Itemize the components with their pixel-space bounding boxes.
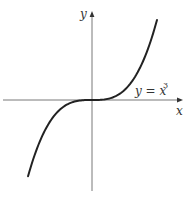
y-axis-arrow-icon (90, 11, 95, 17)
x-axis-arrow-icon (177, 98, 183, 103)
y-axis-label: y (79, 7, 87, 21)
curve-label-exponent: 3 (163, 81, 168, 90)
curve-label: y = x (134, 84, 166, 98)
cubic-graph: y x y = x 3 (0, 0, 189, 197)
x-axis-label: x (176, 104, 183, 118)
cubic-curve (28, 20, 157, 176)
